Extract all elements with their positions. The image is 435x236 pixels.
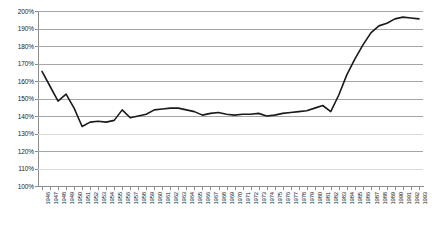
x-tick-label-1969: 1969 <box>229 192 235 205</box>
y-tick-label-190: 190% <box>2 25 34 32</box>
y-tick-label-150: 150% <box>2 95 34 102</box>
x-tick-label-1977: 1977 <box>293 192 299 205</box>
x-tick-mark-1969 <box>227 187 228 190</box>
x-axis-line <box>38 186 424 187</box>
x-tick-mark-1976 <box>283 187 284 190</box>
data-series <box>38 11 423 186</box>
x-tick-mark-1991 <box>403 187 404 190</box>
x-tick-mark-1967 <box>210 187 211 190</box>
x-tick-label-1973: 1973 <box>261 192 267 205</box>
x-tick-label-1964: 1964 <box>189 192 195 205</box>
x-tick-label-1991: 1991 <box>406 192 412 205</box>
x-tick-label-1982: 1982 <box>333 192 339 205</box>
x-tick-mark-1957 <box>130 187 131 190</box>
x-tick-label-1981: 1981 <box>325 192 331 205</box>
x-tick-label-1946: 1946 <box>45 192 51 205</box>
x-tick-label-1985: 1985 <box>357 192 363 205</box>
x-tick-label-1961: 1961 <box>165 192 171 205</box>
x-tick-label-1978: 1978 <box>301 192 307 205</box>
y-tick-label-110: 110% <box>2 165 34 172</box>
x-tick-mark-1961 <box>162 187 163 190</box>
line-chart: 200%190%180%170%160%150%140%130%120%110%… <box>0 0 435 236</box>
x-tick-mark-1963 <box>178 187 179 190</box>
x-tick-label-1956: 1956 <box>125 192 131 205</box>
y-tick-label-170: 170% <box>2 60 34 67</box>
x-tick-mark-1983 <box>339 187 340 190</box>
x-tick-mark-1952 <box>90 187 91 190</box>
y-tick-label-180: 180% <box>2 43 34 50</box>
y-tick-label-130: 130% <box>2 130 34 137</box>
x-tick-label-1989: 1989 <box>390 192 396 205</box>
x-tick-mark-1946 <box>42 187 43 190</box>
x-tick-label-1974: 1974 <box>269 192 275 205</box>
x-tick-label-1965: 1965 <box>197 192 203 205</box>
x-tick-mark-1954 <box>106 187 107 190</box>
y-axis-tick-labels: 200%190%180%170%160%150%140%130%120%110%… <box>0 0 34 236</box>
x-tick-label-1971: 1971 <box>245 192 251 205</box>
x-tick-label-1962: 1962 <box>173 192 179 205</box>
x-tick-mark-1974 <box>267 187 268 190</box>
x-tick-mark-1985 <box>355 187 356 190</box>
x-tick-mark-1965 <box>194 187 195 190</box>
x-tick-mark-1975 <box>275 187 276 190</box>
x-tick-label-1952: 1952 <box>93 192 99 205</box>
x-tick-mark-1981 <box>323 187 324 190</box>
x-tick-label-1975: 1975 <box>277 192 283 205</box>
x-tick-mark-1970 <box>235 187 236 190</box>
x-tick-label-1955: 1955 <box>117 192 123 205</box>
x-tick-mark-1959 <box>146 187 147 190</box>
x-tick-label-1949: 1949 <box>69 192 75 205</box>
x-tick-mark-1955 <box>114 187 115 190</box>
x-tick-mark-1962 <box>170 187 171 190</box>
plot-area <box>38 11 423 186</box>
x-tick-mark-1989 <box>387 187 388 190</box>
x-tick-label-1953: 1953 <box>101 192 107 205</box>
x-tick-label-1960: 1960 <box>157 192 163 205</box>
x-tick-label-1986: 1986 <box>365 192 371 205</box>
y-tick-label-140: 140% <box>2 113 34 120</box>
x-tick-label-1957: 1957 <box>133 192 139 205</box>
x-tick-label-1951: 1951 <box>85 192 91 205</box>
x-tick-label-1948: 1948 <box>61 192 67 205</box>
x-tick-label-1972: 1972 <box>253 192 259 205</box>
x-tick-mark-1986 <box>363 187 364 190</box>
x-tick-label-1988: 1988 <box>382 192 388 205</box>
x-tick-label-1983: 1983 <box>341 192 347 205</box>
x-tick-mark-1951 <box>82 187 83 190</box>
x-tick-label-1987: 1987 <box>374 192 380 205</box>
x-tick-label-1990: 1990 <box>398 192 404 205</box>
x-tick-mark-1949 <box>66 187 67 190</box>
x-tick-mark-1956 <box>122 187 123 190</box>
x-tick-mark-1973 <box>259 187 260 190</box>
x-tick-label-1959: 1959 <box>149 192 155 205</box>
x-tick-mark-1984 <box>347 187 348 190</box>
x-tick-label-1967: 1967 <box>213 192 219 205</box>
x-tick-label-1958: 1958 <box>141 192 147 205</box>
series-line-path <box>42 17 419 126</box>
x-tick-mark-1979 <box>307 187 308 190</box>
x-tick-mark-1980 <box>315 187 316 190</box>
x-tick-mark-1964 <box>186 187 187 190</box>
x-tick-label-1954: 1954 <box>109 192 115 205</box>
x-tick-mark-1988 <box>379 187 380 190</box>
x-tick-mark-1977 <box>291 187 292 190</box>
x-tick-mark-1950 <box>74 187 75 190</box>
x-tick-mark-1990 <box>395 187 396 190</box>
x-tick-label-1966: 1966 <box>205 192 211 205</box>
x-tick-mark-1953 <box>98 187 99 190</box>
x-tick-label-1968: 1968 <box>221 192 227 205</box>
x-tick-label-1976: 1976 <box>285 192 291 205</box>
x-tick-mark-1971 <box>243 187 244 190</box>
x-tick-mark-1972 <box>251 187 252 190</box>
y-tick-label-120: 120% <box>2 148 34 155</box>
x-tick-mark-1968 <box>219 187 220 190</box>
x-tick-mark-1993 <box>419 187 420 190</box>
x-tick-label-1950: 1950 <box>77 192 83 205</box>
x-tick-label-1992: 1992 <box>414 192 420 205</box>
x-tick-mark-1960 <box>154 187 155 190</box>
x-tick-label-1984: 1984 <box>349 192 355 205</box>
x-tick-mark-1966 <box>202 187 203 190</box>
x-tick-mark-1947 <box>50 187 51 190</box>
x-tick-label-1993: 1993 <box>422 192 428 205</box>
x-tick-mark-1958 <box>138 187 139 190</box>
